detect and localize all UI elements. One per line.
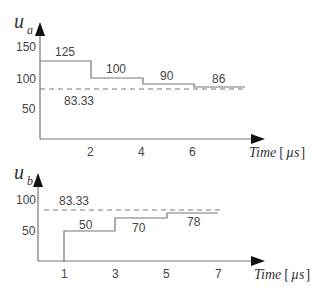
x-axis-arrow-icon (251, 256, 265, 266)
y-tick-label: 50 (22, 102, 36, 116)
x-tick-label: 2 (87, 145, 94, 159)
x-axis-arrow-icon (251, 134, 265, 144)
y-tick-label: 100 (16, 72, 36, 86)
x-tick-label: 4 (138, 145, 145, 159)
reference-label-ua: 83.33 (64, 94, 94, 108)
x-tick-label: 5 (163, 267, 170, 281)
step-value-label: 125 (55, 45, 75, 59)
step-value-label: 50 (79, 218, 93, 232)
y-tick-label: 50 (22, 224, 36, 238)
step-value-label: 78 (187, 215, 201, 229)
y-axis-label-sub-ub: b (27, 174, 33, 188)
chart-ub: u b 100 50 1 3 5 7 Time[µs] 83.33 50 70 … (14, 161, 310, 282)
y-tick-label: 100 (16, 193, 36, 207)
y-tick-label: 150 (16, 40, 36, 54)
y-axis-label-ub: u (14, 161, 24, 183)
x-tick-label: 7 (215, 267, 222, 281)
x-tick-label: 1 (61, 267, 68, 281)
step-value-label: 70 (132, 221, 146, 235)
chart-canvas: u a 150 100 50 2 4 6 Time[µs] 83.33 125 … (0, 0, 323, 299)
x-tick-label: 6 (189, 145, 196, 159)
y-axis-arrow-icon (35, 22, 45, 36)
x-axis-label-ua: Time[µs] (249, 145, 305, 160)
x-tick-label: 3 (112, 267, 119, 281)
y-axis-arrow-icon (33, 173, 43, 187)
y-axis-label-sub-ua: a (27, 23, 33, 37)
step-value-label: 100 (106, 62, 126, 76)
step-value-label: 86 (212, 72, 226, 86)
y-axis-label-ua: u (14, 10, 24, 32)
reference-label-ub: 83.33 (59, 194, 89, 208)
x-axis-label-ub: Time[µs] (254, 267, 310, 282)
step-value-label: 90 (160, 69, 174, 83)
chart-ua: u a 150 100 50 2 4 6 Time[µs] 83.33 125 … (14, 10, 305, 160)
